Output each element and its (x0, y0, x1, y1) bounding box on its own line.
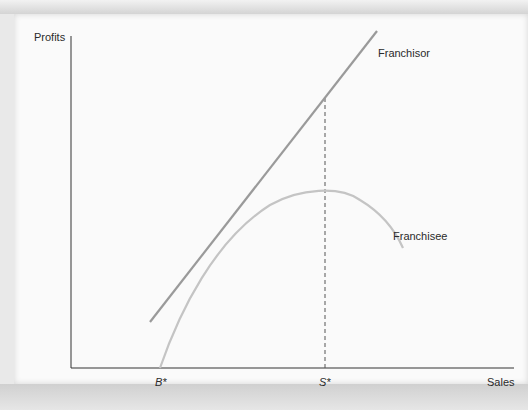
x-axis-label: Sales (487, 376, 515, 388)
franchisor-line (150, 31, 377, 322)
franchisee-label: Franchisee (393, 230, 447, 242)
franchisor-label: Franchisor (378, 47, 430, 59)
s-star-tick-label: S* (319, 376, 331, 388)
profits-vs-sales-chart: Profits Franchisor Franchisee B* S* Sale… (0, 0, 528, 410)
y-axis-label: Profits (34, 31, 66, 43)
b-star-tick-label: B* (155, 376, 167, 388)
franchisee-curve (160, 191, 403, 368)
